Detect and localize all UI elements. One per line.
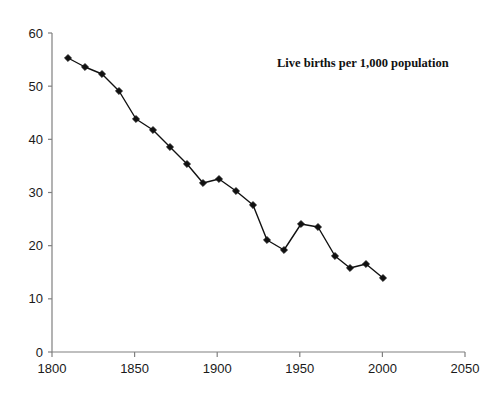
y-tick-label: 50	[29, 79, 43, 94]
x-tick-label: 2050	[451, 361, 480, 376]
y-tick-label: 60	[29, 26, 43, 41]
line-chart: 0102030405060 180018501900195020002050 L…	[0, 0, 504, 398]
x-tick-label: 1800	[38, 361, 67, 376]
y-tick-label: 10	[29, 291, 43, 306]
x-tick-label: 1950	[285, 361, 314, 376]
y-tick-label: 40	[29, 132, 43, 147]
x-tick-label: 1900	[203, 361, 232, 376]
y-tick-label: 30	[29, 185, 43, 200]
y-tick-label: 0	[36, 345, 43, 360]
x-tick-label: 2000	[368, 361, 397, 376]
chart-container: 0102030405060 180018501900195020002050 L…	[0, 0, 504, 398]
chart-annotation-label: Live births per 1,000 population	[277, 56, 449, 70]
y-tick-label: 20	[29, 238, 43, 253]
x-tick-label: 1850	[120, 361, 149, 376]
